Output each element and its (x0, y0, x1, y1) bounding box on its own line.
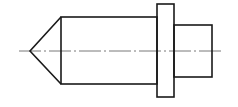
main-cylinder (61, 17, 157, 84)
conical-tip (30, 17, 61, 84)
flange (157, 4, 174, 97)
technical-drawing (0, 0, 238, 107)
